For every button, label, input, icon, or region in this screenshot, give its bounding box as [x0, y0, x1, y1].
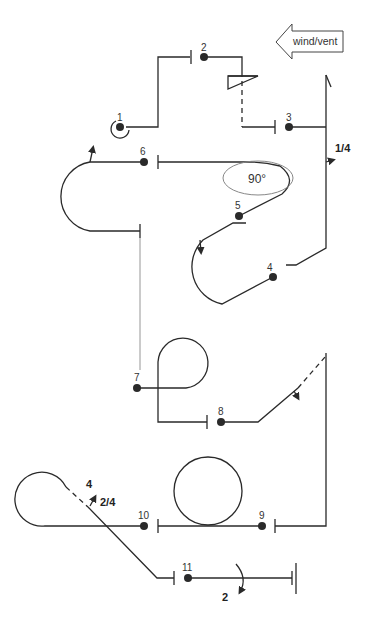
svg-text:11: 11 — [182, 562, 193, 573]
segment-9-to-10 — [158, 457, 262, 533]
mark-1: 1 — [116, 112, 124, 131]
wind-direction-arrow-icon: wind/vent — [276, 24, 343, 59]
svg-text:2: 2 — [201, 42, 207, 53]
segment-5-to-6 — [158, 155, 290, 216]
segment-7-to-8 — [137, 338, 208, 429]
segment-6-to-7 — [61, 148, 144, 370]
angle-90-ellipse: 90° — [223, 161, 293, 195]
segment-8-to-9 — [221, 353, 326, 533]
svg-text:9: 9 — [259, 510, 265, 521]
obstacle-fence-icon — [228, 76, 258, 89]
angle-label: 90° — [248, 172, 266, 186]
segment-4-to-5 — [192, 223, 273, 304]
turn-label-2: 2 — [222, 591, 228, 603]
svg-text:5: 5 — [235, 200, 241, 211]
segment-11-finish: 2 — [188, 563, 296, 603]
mark-2: 2 — [200, 42, 208, 61]
mark-9: 9 — [258, 510, 266, 530]
segment-2-to-3 — [204, 57, 275, 134]
segment-10-to-11: 4 2/4 — [15, 472, 174, 585]
segment-1-to-2 — [126, 50, 191, 127]
mark-8: 8 — [217, 406, 225, 426]
svg-text:1: 1 — [117, 112, 123, 123]
mark-7: 7 — [133, 372, 141, 392]
course-diagram-svg: wind/vent 1/4 90° — [0, 0, 369, 622]
turn-label-4: 4 — [86, 478, 93, 490]
mark-5: 5 — [235, 200, 243, 220]
svg-text:3: 3 — [286, 112, 292, 123]
turn-label-1-4: 1/4 — [335, 142, 351, 154]
mark-4: 4 — [267, 262, 277, 281]
svg-text:6: 6 — [140, 146, 146, 157]
course-diagram: wind/vent 1/4 90° — [0, 0, 369, 622]
mark-6: 6 — [140, 146, 148, 166]
svg-text:10: 10 — [138, 510, 150, 521]
svg-text:7: 7 — [134, 372, 140, 383]
segment-3-to-4: 1/4 — [286, 75, 351, 265]
wind-label: wind/vent — [292, 35, 337, 47]
turn-label-2-4: 2/4 — [100, 496, 116, 508]
svg-text:4: 4 — [267, 262, 273, 273]
mark-11: 11 — [182, 562, 193, 582]
svg-text:8: 8 — [218, 406, 224, 417]
mark-10: 10 — [138, 510, 150, 530]
mark-3: 3 — [285, 112, 293, 131]
